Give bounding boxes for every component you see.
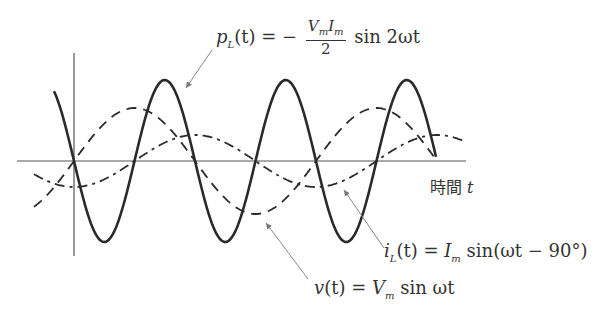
waveform-diagram: pL(t) = − VmIm 2 sin 2ωt 時間 t iL(t) = Im… [0, 0, 606, 317]
voltage-equation-label: v(t) = Vm sin ωt [314, 277, 454, 301]
power-lhs-arg: (t) = − [234, 26, 297, 47]
power-rhs: sin 2ωt [354, 26, 420, 47]
power-fraction: VmIm 2 [306, 18, 346, 58]
current-eq: (t) = [396, 240, 444, 261]
voltage-symbol: v [314, 277, 324, 298]
vm-symbol: V [308, 17, 319, 35]
voltage-leader-arrow [266, 223, 308, 279]
current-rhs: sin(ωt − 90°) [461, 240, 588, 261]
power-leader-arrow [186, 50, 212, 88]
voltage-rhs: sin ωt [394, 277, 454, 298]
voltage-amp: V [372, 277, 385, 298]
power-equation-label: pL(t) = − VmIm 2 sin 2ωt [216, 18, 420, 58]
current-amp-subscript: m [451, 253, 460, 264]
vm-subscript: m [319, 26, 328, 37]
power-fraction-denominator: 2 [306, 41, 346, 58]
time-variable: t [467, 178, 473, 197]
power-fraction-numerator: VmIm [306, 18, 346, 41]
current-equation-label: iL(t) = Im sin(ωt − 90°) [384, 240, 588, 264]
time-axis-label: 時間 t [430, 174, 474, 198]
im-subscript: m [334, 26, 343, 37]
time-label-text: 時間 [430, 178, 462, 197]
voltage-eq: (t) = [324, 277, 372, 298]
power-symbol: p [216, 26, 228, 47]
